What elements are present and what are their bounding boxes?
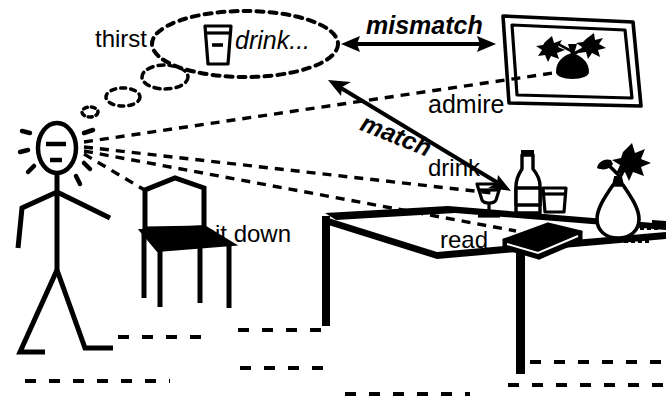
label-read: read <box>440 228 488 252</box>
book <box>504 224 581 258</box>
vase-with-flower <box>597 143 658 243</box>
label-drink: drink <box>428 156 480 180</box>
thought-trail <box>82 65 188 117</box>
scene-canvas: thirst drink... mismatch admire match dr… <box>0 0 666 397</box>
stick-figure-person <box>18 123 113 352</box>
label-admire: admire <box>428 92 504 117</box>
label-mismatch: mismatch <box>366 13 483 38</box>
picture-frame <box>503 16 641 106</box>
floor-dashed-lines <box>25 330 666 394</box>
label-drink-thought: drink... <box>235 28 310 53</box>
bottle <box>516 150 540 213</box>
label-thirst: thirst <box>95 27 147 51</box>
tumbler-glass <box>543 188 566 212</box>
scene-illustration <box>0 0 666 397</box>
label-sit-down: sit down <box>203 222 291 246</box>
